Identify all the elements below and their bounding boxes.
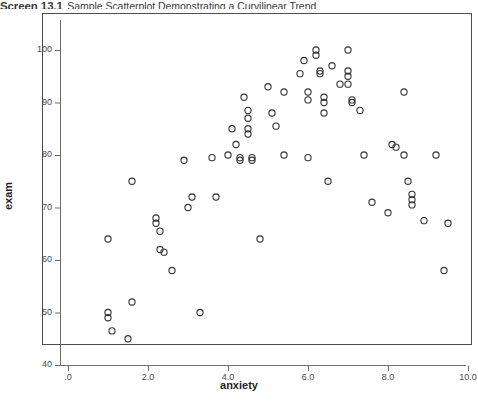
data-point (325, 178, 331, 184)
data-point (233, 141, 239, 147)
data-point (197, 309, 203, 315)
data-point (109, 328, 115, 334)
y-axis-tick-label: 100 (26, 44, 52, 54)
data-point (305, 89, 311, 95)
data-point (433, 152, 439, 158)
data-point (345, 81, 351, 87)
data-point (305, 97, 311, 103)
data-point (129, 299, 135, 305)
data-point (421, 218, 427, 224)
data-point (229, 126, 235, 132)
data-point (265, 84, 271, 90)
data-point (441, 267, 447, 273)
data-point (281, 152, 287, 158)
data-point (257, 236, 263, 242)
y-axis-title: exam (2, 166, 14, 226)
data-point (281, 89, 287, 95)
y-axis-tick-label: 60 (26, 254, 52, 264)
data-point (321, 110, 327, 116)
data-point (337, 81, 343, 87)
data-point (157, 228, 163, 234)
data-point (269, 110, 275, 116)
x-axis-title: anxiety (0, 379, 478, 391)
data-point (405, 178, 411, 184)
y-axis-tick-label: 70 (26, 202, 52, 212)
data-point (369, 199, 375, 205)
data-point (329, 63, 335, 69)
data-point (241, 94, 247, 100)
data-point (225, 152, 231, 158)
y-axis-tick-label: 40 (26, 359, 52, 369)
scatter-plot-canvas (0, 0, 478, 401)
y-axis-tick-label: 90 (26, 97, 52, 107)
data-point (105, 236, 111, 242)
data-point (301, 57, 307, 63)
y-axis-tick-label: 80 (26, 149, 52, 159)
x-axis-ticks (69, 366, 469, 372)
scatterplot-figure: Screen 13.1 Sample Scatterplot Demonstra… (0, 0, 478, 401)
data-point (169, 267, 175, 273)
data-point (273, 123, 279, 129)
y-axis-ticks (55, 51, 61, 366)
data-point (305, 155, 311, 161)
data-point (401, 152, 407, 158)
data-points (105, 47, 451, 342)
data-point (357, 107, 363, 113)
data-point (129, 178, 135, 184)
axes (61, 20, 467, 366)
data-point (181, 157, 187, 163)
data-point (189, 194, 195, 200)
data-point (297, 71, 303, 77)
data-point (185, 204, 191, 210)
data-point (361, 152, 367, 158)
data-point (401, 89, 407, 95)
data-point (385, 210, 391, 216)
data-point (445, 220, 451, 226)
data-point (213, 194, 219, 200)
data-point (125, 336, 131, 342)
data-point (245, 115, 251, 121)
y-axis-tick-label: 50 (26, 307, 52, 317)
data-point (209, 155, 215, 161)
data-point (345, 47, 351, 53)
data-point (245, 107, 251, 113)
